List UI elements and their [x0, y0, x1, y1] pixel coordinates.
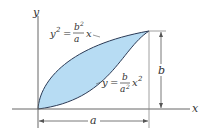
svg-text:2: 2	[125, 83, 130, 90]
svg-text:=: =	[110, 77, 118, 88]
svg-text:y: y	[101, 77, 108, 88]
svg-text:2: 2	[137, 75, 143, 83]
x-axis-label: x	[192, 102, 199, 115]
shaded-region	[38, 31, 149, 109]
svg-text:2: 2	[55, 26, 61, 34]
svg-text:2: 2	[79, 20, 84, 27]
b-dimension-label: b	[158, 64, 165, 77]
upper-curve-equation: y 2 = b 2 a x	[49, 20, 100, 44]
b-arrow-top	[159, 32, 163, 37]
b-arrow-bottom	[159, 103, 163, 108]
svg-text:=: =	[63, 28, 71, 39]
svg-text:b: b	[122, 72, 128, 82]
svg-text:a: a	[120, 84, 125, 94]
svg-text:x: x	[86, 28, 92, 39]
svg-text:y: y	[49, 28, 56, 39]
y-axis-label: y	[32, 6, 40, 19]
a-arrow-right	[143, 119, 148, 123]
a-dimension-label: a	[90, 114, 97, 127]
area-diagram: y x b a y 2 = b 2 a x y = b a 2 x 2	[0, 0, 208, 139]
a-arrow-left	[39, 119, 44, 123]
svg-text:a: a	[74, 34, 79, 44]
